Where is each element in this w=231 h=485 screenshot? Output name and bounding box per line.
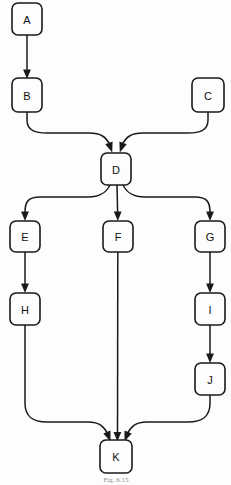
edge-d-to-g xyxy=(123,185,210,212)
edge-b-to-d xyxy=(27,112,110,145)
arrowhead-g-to-i xyxy=(206,284,214,294)
arrowhead-c-to-d xyxy=(119,142,126,153)
arrowhead-d-to-f xyxy=(114,211,122,221)
node-j-label: J xyxy=(207,374,213,386)
edge-h-to-k xyxy=(25,325,108,434)
node-d[interactable]: D xyxy=(101,153,131,185)
node-j[interactable]: J xyxy=(195,363,225,395)
node-k-label: K xyxy=(112,451,120,463)
node-h-label: H xyxy=(21,304,29,316)
flowchart-canvas: A B C D E F xyxy=(0,0,231,485)
node-d-label: D xyxy=(112,164,120,176)
edge-c-to-d xyxy=(122,112,208,145)
node-c[interactable]: C xyxy=(192,78,224,112)
node-e-label: E xyxy=(21,231,28,243)
arrowhead-d-to-e xyxy=(21,212,29,222)
node-b-label: B xyxy=(23,90,30,102)
flowchart-diagram: A B C D E F xyxy=(0,0,231,485)
edge-d-to-f xyxy=(117,185,118,212)
node-c-label: C xyxy=(204,90,212,102)
node-a[interactable]: A xyxy=(12,3,42,35)
node-f-label: F xyxy=(115,231,122,243)
arrowhead-i-to-j xyxy=(206,354,214,364)
node-k[interactable]: K xyxy=(100,440,132,473)
node-g-label: G xyxy=(206,231,215,243)
arrowhead-e-to-h xyxy=(21,284,29,294)
node-e[interactable]: E xyxy=(10,221,40,252)
node-i-label: I xyxy=(208,304,211,316)
node-h[interactable]: H xyxy=(10,293,40,325)
arrowhead-b-to-d xyxy=(105,142,112,153)
edge-d-to-e xyxy=(25,185,110,212)
figure-caption: Fig. 6.15 xyxy=(103,476,129,484)
arrowhead-d-to-g xyxy=(206,212,214,222)
node-i[interactable]: I xyxy=(195,293,225,325)
node-a-label: A xyxy=(23,14,31,26)
node-g[interactable]: G xyxy=(195,221,225,252)
node-b[interactable]: B xyxy=(12,78,42,112)
edge-j-to-k xyxy=(127,395,210,434)
node-f[interactable]: F xyxy=(103,221,133,252)
